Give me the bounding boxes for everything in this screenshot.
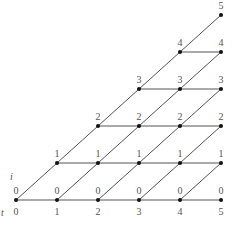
lattice-edge — [16, 163, 57, 200]
lattice-edge — [139, 52, 180, 89]
state-axis-label: i — [10, 171, 13, 182]
node-label: 2 — [137, 111, 142, 122]
lattice-edge — [139, 126, 180, 163]
node-label: 3 — [137, 74, 142, 85]
lattice-node — [219, 161, 223, 165]
lattice-edge — [98, 163, 139, 200]
node-label: 0 — [96, 185, 101, 196]
lattice-node — [219, 50, 223, 54]
node-label: 1 — [178, 148, 183, 159]
lattice-edges — [16, 15, 221, 200]
lattice-node — [55, 198, 59, 202]
lattice-node — [178, 87, 182, 91]
time-tick-label: 3 — [137, 206, 142, 217]
time-axis-ticks: 012345 — [14, 206, 224, 217]
lattice-edge — [180, 52, 221, 89]
node-label: 4 — [219, 37, 224, 48]
lattice-node — [96, 198, 100, 202]
lattice-node — [137, 87, 141, 91]
node-label: 0 — [219, 185, 224, 196]
node-label: 0 — [137, 185, 142, 196]
node-label: 1 — [219, 148, 224, 159]
node-label: 3 — [178, 74, 183, 85]
lattice-node — [219, 13, 223, 17]
lattice-node — [96, 124, 100, 128]
lattice-node — [178, 161, 182, 165]
lattice-diagram: 001012012301234012345 012345 i t — [0, 0, 238, 228]
time-tick-label: 1 — [55, 206, 60, 217]
lattice-node — [178, 198, 182, 202]
time-tick-label: 4 — [178, 206, 183, 217]
lattice-edge — [98, 89, 139, 126]
lattice-node — [219, 198, 223, 202]
time-tick-label: 0 — [14, 206, 19, 217]
node-label: 0 — [178, 185, 183, 196]
time-axis-label: t — [1, 207, 4, 218]
time-tick-label: 2 — [96, 206, 101, 217]
node-label: 2 — [219, 111, 224, 122]
node-label: 1 — [55, 148, 60, 159]
node-label: 0 — [55, 185, 60, 196]
node-label: 1 — [137, 148, 142, 159]
lattice-edge — [180, 126, 221, 163]
lattice-node — [137, 161, 141, 165]
lattice-node — [219, 124, 223, 128]
lattice-edge — [98, 126, 139, 163]
node-label: 5 — [219, 0, 224, 11]
node-labels: 001012012301234012345 — [14, 0, 224, 196]
lattice-node — [137, 124, 141, 128]
lattice-edge — [180, 89, 221, 126]
lattice-edge — [139, 163, 180, 200]
lattice-node — [96, 161, 100, 165]
node-label: 0 — [14, 185, 19, 196]
node-label: 2 — [178, 111, 183, 122]
lattice-node — [55, 161, 59, 165]
node-label: 3 — [219, 74, 224, 85]
lattice-edge — [57, 163, 98, 200]
lattice-node — [178, 124, 182, 128]
lattice-node — [178, 50, 182, 54]
lattice-node — [219, 87, 223, 91]
node-label: 1 — [96, 148, 101, 159]
lattice-node — [14, 198, 18, 202]
lattice-edge — [180, 15, 221, 52]
node-label: 2 — [96, 111, 101, 122]
lattice-edge — [57, 126, 98, 163]
lattice-edge — [180, 163, 221, 200]
node-label: 4 — [178, 37, 183, 48]
time-tick-label: 5 — [219, 206, 224, 217]
lattice-node — [137, 198, 141, 202]
lattice-edge — [139, 89, 180, 126]
